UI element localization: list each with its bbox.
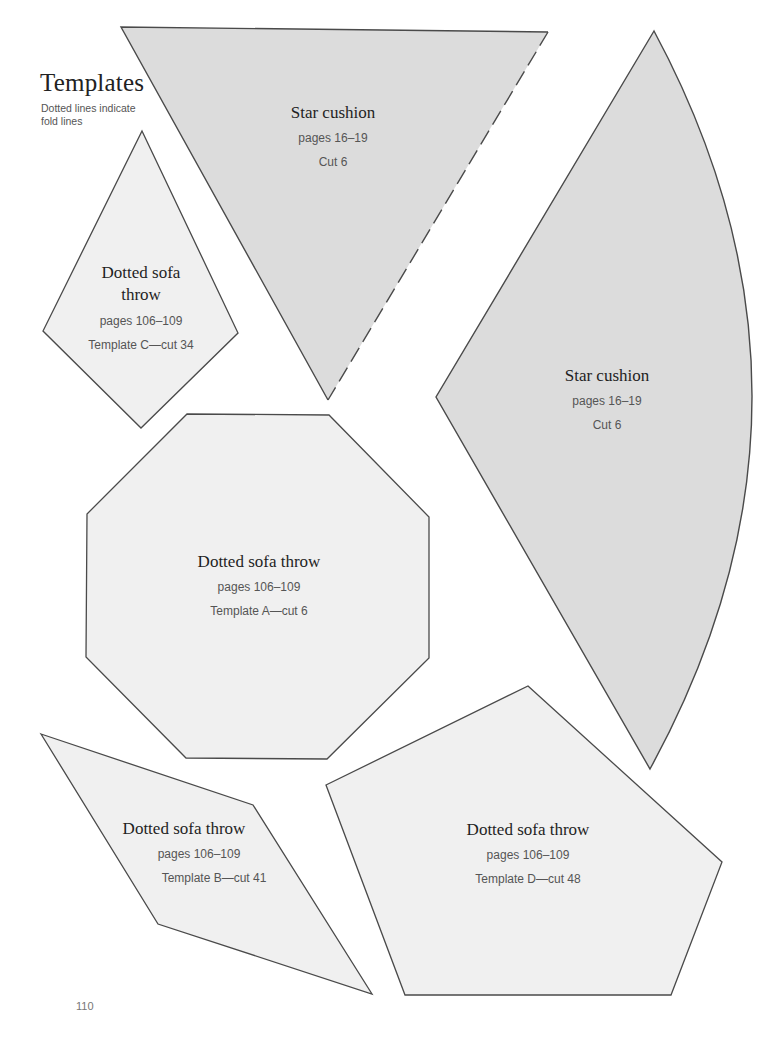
template-cut: Cut 6: [565, 418, 650, 433]
template-label-sofa-c: Dotted sofa throw pages 106–109 Template…: [86, 262, 196, 353]
template-name: Star cushion: [565, 366, 650, 386]
template-name: Dotted sofa throw: [467, 820, 590, 840]
template-pages: pages 106–109: [467, 848, 590, 863]
template-pages: pages 106–109: [198, 580, 321, 595]
template-cut: Template A—cut 6: [198, 604, 321, 619]
page-number: 110: [76, 1000, 94, 1012]
template-label-sofa-b: Dotted sofa throw pages 106–109 Template…: [102, 819, 267, 886]
template-pages: pages 106–109: [86, 314, 196, 329]
template-cut: Template D—cut 48: [467, 872, 590, 887]
template-cut: Template B—cut 41: [162, 871, 267, 886]
template-label-sofa-d: Dotted sofa throw pages 106–109 Template…: [467, 820, 590, 887]
template-name: Star cushion: [291, 103, 376, 123]
template-pages: pages 16–19: [565, 394, 650, 409]
template-label-star-triangle: Star cushion pages 16–19 Cut 6: [291, 103, 376, 170]
template-name: Dotted sofa throw: [102, 819, 267, 839]
template-label-star-wedge: Star cushion pages 16–19 Cut 6: [565, 366, 650, 433]
template-name: Dotted sofa throw: [86, 262, 196, 306]
template-cut: Cut 6: [291, 155, 376, 170]
page-subtitle: Dotted lines indicate fold lines: [41, 102, 151, 128]
template-name: Dotted sofa throw: [198, 552, 321, 572]
template-pages: pages 16–19: [291, 131, 376, 146]
template-label-sofa-a: Dotted sofa throw pages 106–109 Template…: [198, 552, 321, 619]
template-pages: pages 106–109: [132, 847, 267, 862]
template-cut: Template C—cut 34: [86, 338, 196, 353]
page-title: Templates: [40, 69, 144, 97]
